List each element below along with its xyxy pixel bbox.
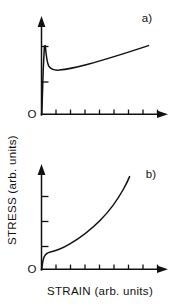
panel-b-y-axis [38,164,46,270]
y-axis-arrowhead-a [38,16,46,27]
x-axis-arrowhead-b [157,266,168,273]
panel-label-a: a) [142,12,153,24]
x-axis-title: STRAIN (arb. units) [47,285,153,297]
origin-label-panel-a: O [27,108,36,120]
curve-panel-b [42,177,130,270]
y-axis-arrowhead-b [38,164,46,175]
y-axis-title: STRESS (arb. units) [6,135,18,245]
panel-label-b: b) [146,168,157,180]
panel-a-y-axis [38,16,46,115]
panel-a-x-axis [42,111,169,118]
panel-b [38,164,168,273]
x-axis-arrowhead-a [157,111,168,118]
stress-strain-figure: a) O [0,0,179,307]
panel-b-x-axis [42,266,169,273]
figure-canvas: a) O [0,0,179,307]
panel-a [38,16,168,118]
origin-label-panel-b: O [27,263,36,275]
panel-b-y-ticks [42,197,49,247]
curve-panel-a [42,46,149,115]
